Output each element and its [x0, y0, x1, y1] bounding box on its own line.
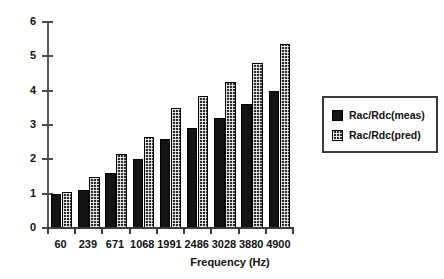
x-axis-title: Frequency (Hz) [150, 256, 310, 268]
bar-predicted [171, 108, 182, 228]
plot-area [47, 22, 292, 228]
legend-item-measured: Rac/Rdc(meas) [332, 105, 436, 125]
y-tick-label: 2 [10, 153, 36, 164]
y-tick-label: 1 [10, 188, 36, 199]
bar-measured [241, 104, 252, 228]
legend-swatch-measured-icon [332, 110, 343, 121]
bar-predicted [89, 177, 100, 228]
legend-item-predicted: Rac/Rdc(pred) [332, 125, 436, 145]
bar-predicted [252, 63, 263, 228]
x-tick-label: 4900 [258, 238, 298, 250]
y-tick-label: 0 [10, 222, 36, 233]
x-tick [183, 227, 185, 234]
bar-predicted [225, 82, 236, 228]
bar-predicted [116, 154, 127, 228]
y-tick-label: 6 [10, 16, 36, 27]
x-tick [74, 227, 76, 234]
bar-chart-figure: 0123456 60239671106819912486302838804900… [0, 0, 444, 279]
bar-measured [51, 194, 62, 228]
bar-predicted [198, 96, 209, 228]
y-tick-label: 5 [10, 50, 36, 61]
bar-measured [133, 159, 144, 228]
legend-label-predicted: Rac/Rdc(pred) [349, 130, 421, 141]
bar-predicted [280, 44, 291, 228]
bar-predicted [62, 192, 73, 228]
x-tick [101, 227, 103, 234]
bar-measured [78, 190, 89, 228]
chart-legend: Rac/Rdc(meas) Rac/Rdc(pred) [322, 96, 438, 153]
x-tick [265, 227, 267, 234]
x-tick [292, 227, 294, 234]
bar-measured [214, 118, 225, 228]
x-tick [210, 227, 212, 234]
legend-label-measured: Rac/Rdc(meas) [349, 110, 425, 121]
y-tick-label: 3 [10, 119, 36, 130]
x-tick [47, 227, 49, 234]
x-tick [238, 227, 240, 234]
x-tick [129, 227, 131, 234]
bar-measured [269, 91, 280, 228]
bar-measured [187, 128, 198, 228]
x-tick [156, 227, 158, 234]
legend-swatch-predicted-icon [332, 130, 343, 141]
x-axis-line [47, 227, 294, 229]
bar-predicted [144, 137, 155, 228]
y-tick-label: 4 [10, 85, 36, 96]
bar-measured [105, 173, 116, 228]
bar-measured [160, 139, 171, 228]
